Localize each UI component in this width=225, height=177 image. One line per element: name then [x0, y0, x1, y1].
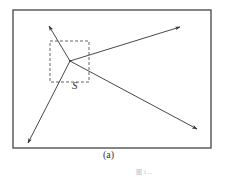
- vertex-point: [69, 60, 71, 62]
- arrow-up-left: [49, 26, 70, 61]
- diagram-canvas: S (a) 图 1 ...: [0, 0, 225, 177]
- arrow-down-right: [70, 61, 197, 129]
- arrow-down-left: [28, 61, 70, 143]
- outer-frame: [13, 10, 211, 148]
- arrow-group: [28, 26, 197, 143]
- region-label-s: S: [72, 79, 78, 91]
- figure-caption: (a): [103, 149, 114, 161]
- arrow-up-right: [70, 27, 180, 61]
- footer-text: 图 1 ...: [136, 169, 153, 176]
